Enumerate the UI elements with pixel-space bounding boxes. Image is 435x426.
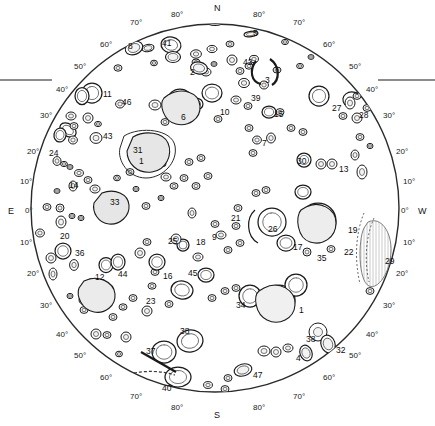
crater-symbol xyxy=(244,103,252,110)
crater-symbol xyxy=(123,39,144,57)
crater-symbol xyxy=(297,63,304,68)
crater-symbol xyxy=(206,17,224,26)
crater-symbol xyxy=(114,175,121,181)
crater-label-38: 38 xyxy=(180,327,189,336)
crater-label-23: 23 xyxy=(146,297,155,306)
crater-symbol xyxy=(252,190,260,197)
crater-symbol xyxy=(170,279,195,301)
crater-symbol xyxy=(271,347,281,357)
crater-label-7: 7 xyxy=(262,139,267,148)
cardinal-label-south: S xyxy=(214,411,220,420)
crater-label-19: 19 xyxy=(348,226,357,235)
latitude-label-10-: 10° xyxy=(20,239,32,247)
crater-symbol xyxy=(90,133,102,144)
crater-symbol xyxy=(111,254,125,270)
crater-label-47: 47 xyxy=(253,371,262,380)
latitude-label-20-: 20° xyxy=(27,270,39,278)
crater-symbol xyxy=(233,362,253,378)
crater-symbol xyxy=(166,52,181,63)
crater-symbol xyxy=(239,78,250,87)
latitude-label-20-: 20° xyxy=(396,148,408,156)
crater-label-32: 32 xyxy=(336,346,345,355)
crater-symbol xyxy=(204,173,212,180)
crater-label-1: 1 xyxy=(139,157,144,166)
crater-label-36: 36 xyxy=(75,249,84,258)
crater-symbol xyxy=(295,185,311,199)
crater-symbol xyxy=(234,205,242,212)
crater-symbol xyxy=(204,382,213,389)
crater-symbol xyxy=(221,386,229,393)
crater-symbol xyxy=(116,351,123,357)
latitude-label-70-: 70° xyxy=(130,19,142,27)
latitude-label-10-: 10° xyxy=(403,178,415,186)
crater-label-31: 31 xyxy=(133,146,142,155)
crater-label-1b: 1 xyxy=(299,306,304,315)
latitude-label-50-: 50° xyxy=(349,352,361,360)
crater-symbol xyxy=(198,268,214,282)
latitude-label-50-: 50° xyxy=(74,352,86,360)
latitude-label-0-: 0° xyxy=(25,207,33,215)
latitude-label-80-: 80° xyxy=(253,404,265,412)
crater-label-43: 43 xyxy=(103,132,112,141)
crater-symbol xyxy=(135,248,145,258)
crater-symbol xyxy=(54,189,60,194)
crater-symbol xyxy=(142,203,150,210)
crater-label-17: 17 xyxy=(293,243,302,252)
latitude-label-70-: 70° xyxy=(130,393,142,401)
basin-19 xyxy=(298,205,336,243)
crater-symbol xyxy=(149,254,165,270)
crater-symbol xyxy=(67,293,73,298)
arc-3 xyxy=(252,61,261,84)
crater-symbol xyxy=(258,346,270,356)
latitude-label-80-: 80° xyxy=(253,11,265,19)
crater-symbol xyxy=(356,134,364,141)
crater-symbol xyxy=(226,41,234,47)
crater-symbol xyxy=(287,125,295,132)
crater-symbol xyxy=(114,65,122,71)
crater-symbol xyxy=(211,221,219,228)
crater-symbol xyxy=(66,112,76,120)
crater-symbol xyxy=(309,86,329,106)
crater-label-5: 5 xyxy=(253,29,258,38)
crater-label-4: 4 xyxy=(296,354,301,363)
crater-symbol xyxy=(46,253,56,263)
crater-symbol xyxy=(202,84,222,102)
crater-label-34: 34 xyxy=(236,301,245,310)
crater-symbol xyxy=(49,268,57,280)
crater-symbol xyxy=(95,121,102,126)
crater-symbol xyxy=(83,113,93,123)
latitude-label-70-: 70° xyxy=(293,393,305,401)
crater-symbol xyxy=(191,50,202,58)
latitude-label-60-: 60° xyxy=(100,41,112,49)
crater-symbol xyxy=(180,175,188,182)
latitude-label-50-: 50° xyxy=(349,63,361,71)
latitude-label-40-: 40° xyxy=(56,86,68,94)
crater-label-28: 28 xyxy=(359,111,368,120)
crater-layer xyxy=(36,14,386,394)
crater-label-37: 37 xyxy=(146,347,155,356)
crater-symbol xyxy=(151,60,158,66)
crater-label-14: 14 xyxy=(69,181,78,190)
latitude-label-30-: 30° xyxy=(40,302,52,310)
cardinal-label-west: W xyxy=(418,207,427,216)
cardinal-label-north: N xyxy=(214,4,221,13)
crater-symbol xyxy=(227,55,237,65)
crater-symbol xyxy=(197,155,205,162)
crater-symbol xyxy=(148,283,156,289)
cardinal-label-east: E xyxy=(8,207,14,216)
crater-label-3: 3 xyxy=(265,76,270,85)
latitude-label-80-: 80° xyxy=(171,11,183,19)
crater-label-46: 46 xyxy=(122,98,131,107)
latitude-label-80-: 80° xyxy=(171,404,183,412)
crater-symbol xyxy=(70,260,79,271)
crater-symbol xyxy=(236,68,244,75)
crater-symbol xyxy=(299,129,307,136)
crater-symbol xyxy=(262,187,270,194)
crater-label-24: 24 xyxy=(49,149,58,158)
latitude-label-10-: 10° xyxy=(20,178,32,186)
latitude-label-70-: 70° xyxy=(293,19,305,27)
latitude-label-30-: 30° xyxy=(383,112,395,120)
crater-symbol xyxy=(158,195,164,200)
crater-label-41: 41 xyxy=(162,39,171,48)
crater-symbol xyxy=(165,301,173,308)
